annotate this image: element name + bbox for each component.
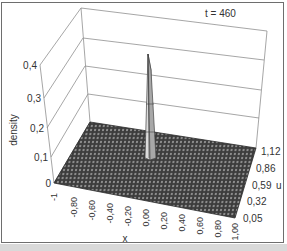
x-tick: -0,40 [105,203,115,224]
u-tick: 0,86 [256,163,276,174]
surface-chart: 0,4 0,3 0,2 0,1 0 density -1 -0,80 -0,60… [0,0,287,251]
u-tick: 1,12 [261,146,281,157]
time-annotation: t = 460 [205,8,236,19]
z-tick: 0,2 [30,123,44,134]
x-tick: 0,40 [177,214,187,232]
u-tick: 0,59 [252,180,272,191]
x-tick: -0,80 [69,197,79,218]
density-peak [145,54,156,160]
z-axis: 0,4 0,3 0,2 0,1 0 density [8,60,51,189]
x-tick: -0,20 [123,206,133,227]
x-axis-label: x [123,233,128,244]
z-tick: 0,1 [34,152,48,163]
x-tick: 1,00 [230,223,240,241]
u-tick: 0,05 [243,213,263,224]
x-tick: -1 [49,193,59,201]
z-tick: 0,4 [23,60,37,71]
x-tick: -0,60 [87,200,97,221]
z-axis-label: density [8,114,19,146]
x-tick: 0,20 [159,212,169,230]
z-tick: 0 [45,178,51,189]
u-axis-label: u [276,180,282,191]
x-tick: 0,60 [195,217,205,235]
u-tick: 0,32 [247,196,267,207]
z-tick: 0,3 [27,93,41,104]
x-tick: 0,80 [213,220,223,238]
x-tick: 0,00 [141,209,151,227]
